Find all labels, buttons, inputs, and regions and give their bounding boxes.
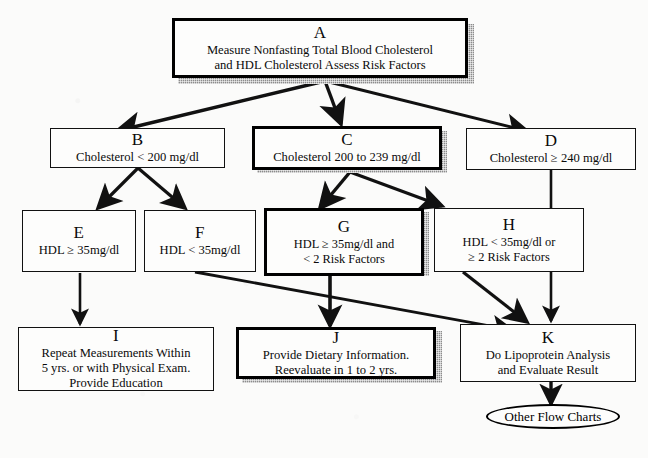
node-b-tag: B — [132, 131, 144, 149]
node-i-tag: I — [113, 327, 119, 345]
node-c[interactable]: C Cholesterol 200 to 239 mg/dl — [252, 126, 442, 170]
node-k-body: Do Lipoprotein Analysis and Evaluate Res… — [481, 348, 616, 378]
node-f-tag: F — [195, 224, 205, 242]
edge-a-to-d — [325, 81, 527, 131]
node-h-body: HDL < 35mg/dl or ≥ 2 Risk Factors — [458, 235, 561, 265]
node-h-tag: H — [503, 216, 516, 234]
edge-h-to-k — [463, 272, 527, 322]
node-j[interactable]: J Provide Dietary Information. Reevaluat… — [236, 327, 436, 379]
node-b[interactable]: B Cholesterol < 200 mg/dl — [50, 128, 225, 168]
node-k[interactable]: K Do Lipoprotein Analysis and Evaluate R… — [460, 324, 636, 382]
node-g[interactable]: G HDL ≥ 35mg/dl and < 2 Risk Factors — [264, 208, 424, 276]
node-e-tag: E — [74, 224, 85, 242]
node-f[interactable]: F HDL < 35mg/dl — [144, 210, 256, 272]
edge-a-to-c — [325, 81, 341, 124]
node-e-body: HDL ≥ 35mg/dl — [34, 243, 125, 258]
node-i[interactable]: I Repeat Measurements Within 5 yrs. or w… — [18, 327, 214, 391]
edge-f-to-k — [195, 272, 512, 330]
node-a[interactable]: A Measure Nonfasting Total Blood Cholest… — [172, 18, 468, 78]
node-a-tag: A — [314, 24, 327, 42]
node-d-body: Cholesterol ≥ 240 mg/dl — [485, 151, 618, 166]
edge-c-to-g — [320, 172, 350, 208]
node-g-tag: G — [338, 218, 351, 236]
node-c-tag: C — [341, 131, 353, 149]
node-j-body: Provide Dietary Information. Reevaluate … — [258, 348, 415, 378]
node-a-body: Measure Nonfasting Total Blood Cholester… — [202, 43, 438, 73]
flowchart-canvas: A Measure Nonfasting Total Blood Cholest… — [0, 0, 648, 458]
node-k-tag: K — [542, 329, 555, 347]
node-h[interactable]: H HDL < 35mg/dl or ≥ 2 Risk Factors — [434, 208, 584, 272]
node-j-tag: J — [332, 329, 339, 347]
edge-a-to-b — [117, 81, 325, 131]
edge-b-to-e — [98, 168, 138, 208]
terminator-other-flow-charts[interactable]: Other Flow Charts — [486, 404, 620, 429]
node-g-body: HDL ≥ 35mg/dl and < 2 Risk Factors — [289, 237, 399, 267]
node-c-body: Cholesterol 200 to 239 mg/dl — [268, 150, 426, 165]
edge-b-to-f — [138, 168, 185, 208]
edge-c-to-h — [350, 172, 442, 206]
node-d-tag: D — [545, 132, 558, 150]
node-d[interactable]: D Cholesterol ≥ 240 mg/dl — [466, 128, 636, 170]
node-b-body: Cholesterol < 200 mg/dl — [71, 150, 204, 165]
node-e[interactable]: E HDL ≥ 35mg/dl — [22, 210, 136, 272]
node-i-body: Repeat Measurements Within 5 yrs. or wit… — [37, 346, 196, 391]
node-f-body: HDL < 35mg/dl — [155, 243, 246, 258]
terminator-label: Other Flow Charts — [505, 409, 602, 425]
